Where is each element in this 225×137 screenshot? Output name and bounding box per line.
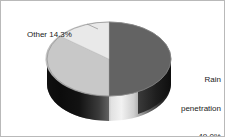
slice-label-rain-penetration: Rain penetration 49.0% [181, 56, 221, 137]
slice-label-rain-line2: penetration [181, 104, 221, 114]
slice-label-condensation: Condensation 36.7% [3, 123, 77, 137]
chart-stage: Other 14.3% Rain penetration 49.0% Conde… [1, 1, 224, 136]
slice-label-other: Other 14.3% [27, 11, 72, 59]
pie-chart-screenshot: Other 14.3% Rain penetration 49.0% Conde… [0, 0, 225, 137]
slice-label-rain-line3: 49.0% [181, 132, 221, 137]
slice-label-other-text: Other 14.3% [27, 30, 72, 40]
slice-label-rain-line1: Rain [181, 75, 221, 85]
